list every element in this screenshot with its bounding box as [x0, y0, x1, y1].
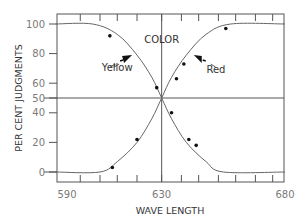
y-tick-label: 40 — [32, 107, 45, 118]
arrow-shaft — [120, 60, 123, 61]
arrow-head-icon — [194, 55, 202, 63]
x-tick-label: 630 — [152, 189, 171, 200]
data-point-red — [182, 62, 186, 66]
x-axis-title: WAVE LENGTH — [136, 205, 205, 216]
y-tick-label: 50 — [32, 93, 45, 104]
annotation-color: COLOR — [144, 34, 179, 45]
y-tick-label: 80 — [32, 48, 45, 59]
y-axis-title: PER CENT JUDGMENTS — [13, 44, 24, 152]
y-tick-label: 60 — [32, 78, 45, 89]
data-point-yellow — [108, 34, 112, 38]
annotation-red: Red — [206, 64, 225, 75]
data-point-yellow — [155, 86, 159, 90]
y-tick-label: 0 — [39, 167, 45, 178]
data-point-yellow — [170, 111, 174, 115]
x-tick-label: 590 — [57, 189, 76, 200]
data-point-yellow — [194, 144, 198, 148]
y-tick-label: 100 — [26, 19, 45, 30]
data-point-yellow — [187, 138, 191, 142]
data-point-red — [111, 166, 115, 170]
data-point-red — [175, 77, 179, 81]
annotations: COLORYellowRed — [101, 34, 226, 75]
psychometric-chart: 02040506080100590630680 COLORYellowRed W… — [0, 0, 302, 223]
arrow-shaft — [203, 60, 206, 61]
data-point-red — [135, 138, 139, 142]
y-tick-label: 20 — [32, 137, 45, 148]
x-tick-label: 680 — [275, 189, 294, 200]
annotation-yellow: Yellow — [101, 62, 133, 73]
data-point-red — [224, 27, 228, 31]
